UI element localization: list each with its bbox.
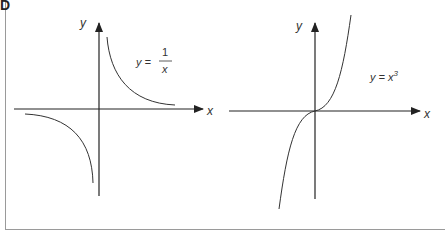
y-axis-label: y	[295, 19, 303, 33]
y-axis-label: y	[79, 16, 87, 30]
x-axis-label: x	[206, 104, 214, 118]
equation-label: y = x3	[369, 69, 399, 83]
x-axis-label: x	[423, 107, 431, 121]
curve-negative-branch	[25, 114, 93, 183]
equation-numerator: 1	[162, 46, 168, 58]
equation-denominator: x	[161, 63, 168, 75]
equation-lhs: y =	[135, 56, 152, 68]
reciprocal-graph: x y y = 1 x	[14, 16, 214, 196]
cubic-graph: x y y = x3	[229, 15, 431, 209]
